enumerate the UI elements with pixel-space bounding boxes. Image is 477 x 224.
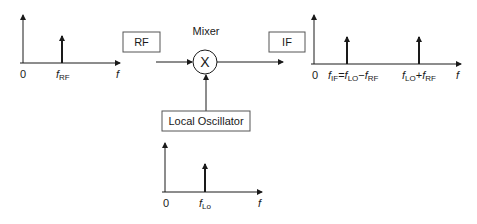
local-oscillator-block: Local Oscillator (162, 111, 250, 131)
rf-block-label: RF (134, 36, 149, 48)
mixer-multiply-icon: X (200, 54, 210, 70)
lo-spectrum-plot: 0 fLo f (162, 143, 262, 211)
local-oscillator-label: Local Oscillator (168, 115, 244, 127)
mixer-label: Mixer (193, 25, 220, 37)
if-sum-label: fLO+fRF (402, 69, 436, 83)
if-difference-label: fIF=fLO−fRF (328, 69, 379, 83)
if-axis-f-label: f (456, 69, 460, 81)
rf-block: RF (123, 32, 160, 52)
lo-spike-label: fLo (199, 197, 212, 211)
rf-spectrum-plot: 0 fRF f (20, 15, 120, 82)
lo-origin-label: 0 (163, 197, 169, 209)
mixer-diagram: 0 fRF f RF Mixer X IF 0 fIF=fLO−fRF fLO+… (0, 0, 477, 224)
rf-spike-label: fRF (56, 68, 70, 82)
if-origin-label: 0 (312, 69, 318, 81)
if-block: IF (269, 32, 305, 52)
if-spectrum-plot: 0 fIF=fLO−fRF fLO+fRF f (311, 15, 461, 83)
rf-axis-f-label: f (116, 68, 120, 80)
if-block-label: IF (282, 36, 292, 48)
lo-axis-f-label: f (258, 197, 262, 209)
rf-origin-label: 0 (20, 68, 26, 80)
mixer-block: Mixer X (193, 25, 220, 74)
